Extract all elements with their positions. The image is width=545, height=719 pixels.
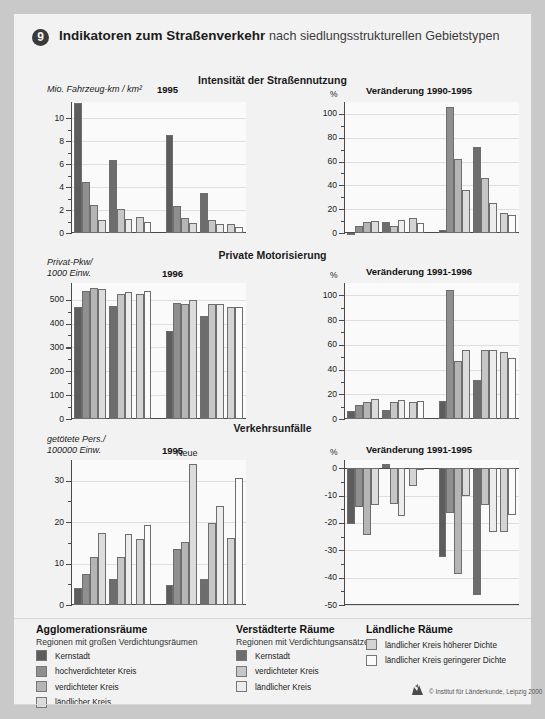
y-tick-minor (341, 126, 345, 127)
gridline (72, 141, 246, 142)
axis-baseline (345, 604, 519, 605)
bar (347, 468, 355, 524)
y-tick-minor (341, 591, 345, 592)
bar (508, 468, 516, 515)
y-tick-label: 20 (311, 389, 337, 399)
y-tick-label: 40 (311, 364, 337, 374)
bar (136, 539, 144, 605)
bar (481, 350, 489, 419)
y-tick (339, 162, 345, 163)
bar (409, 468, 417, 486)
bar (200, 579, 208, 605)
bar (439, 468, 447, 557)
bar (82, 574, 90, 605)
y-tick-label: 100 (311, 108, 337, 118)
bar (117, 557, 125, 605)
bar (371, 221, 379, 233)
bar (473, 468, 481, 595)
y-tick-minor (341, 197, 345, 198)
gridline (345, 578, 519, 579)
legend-title-0: Agglomerationsräume (36, 623, 147, 635)
divider-0 (14, 618, 531, 619)
bar (363, 468, 371, 535)
y-tick-minor (341, 407, 345, 408)
bar (371, 399, 379, 419)
y-tick-minor (68, 359, 72, 360)
bar (500, 352, 508, 419)
legend-item-label: ländlicher Kreis (255, 683, 311, 692)
y-tick (339, 605, 345, 606)
bar (347, 233, 355, 235)
bar (227, 307, 235, 419)
bar (439, 230, 447, 233)
y-tick-minor (341, 308, 345, 309)
bar (489, 203, 497, 233)
bar (481, 178, 489, 233)
y-tick-label: 4 (38, 182, 64, 192)
y-tick (66, 605, 72, 606)
page-title: Indikatoren zum Straßenverkehr nach sied… (59, 28, 499, 43)
legend-swatch (36, 697, 47, 708)
y-axis-unit-right-2: % (330, 447, 338, 457)
gridline (345, 138, 519, 139)
bar (454, 468, 462, 573)
bar (417, 401, 425, 419)
legend-item-label: Kernstadt (255, 652, 290, 661)
plot-area-left-2: 0102030 (71, 460, 246, 605)
y-axis-unit-right-1: % (330, 270, 338, 280)
bar (144, 222, 152, 233)
legend-title-2: Ländliche Räume (366, 623, 453, 635)
y-tick (66, 522, 72, 523)
bar (500, 468, 508, 532)
bar (390, 226, 398, 233)
bar (144, 291, 152, 419)
bar (82, 182, 90, 233)
y-tick-minor (341, 482, 345, 483)
y-tick-label: 0 (311, 463, 337, 473)
bar (508, 358, 516, 419)
bar (189, 464, 197, 605)
legend-subtitle-1: Regionen mit Verdichtungsansätzen (236, 637, 374, 647)
bar (166, 585, 174, 605)
bar (181, 304, 189, 419)
bar (382, 410, 390, 419)
bar (390, 468, 398, 504)
y-tick-label: 8 (38, 136, 64, 146)
y-tick-label: 0 (38, 600, 64, 610)
legend-swatch (236, 681, 247, 692)
y-tick-minor (68, 199, 72, 200)
legend-item-label: verdichteter Kreis (255, 667, 319, 676)
y-tick-minor (341, 357, 345, 358)
y-tick (339, 550, 345, 551)
y-tick (339, 394, 345, 395)
gridline (345, 185, 519, 186)
bar (489, 350, 497, 419)
y-tick (66, 324, 72, 325)
y-tick-label: 100 (38, 390, 64, 400)
bar (473, 147, 481, 233)
bar (235, 478, 243, 605)
y-tick (339, 370, 345, 371)
bar (382, 464, 390, 468)
y-tick-label: 0 (311, 228, 337, 238)
y-tick-minor (68, 407, 72, 408)
bar (90, 557, 98, 605)
bar (390, 402, 398, 419)
bar (98, 289, 106, 419)
legend-title-1: Verstädterte Räume (236, 623, 335, 635)
bar (181, 542, 189, 605)
y-tick-label: -50 (311, 600, 337, 610)
legend-item-label: hochverdichteter Kreis (55, 667, 136, 676)
legend-swatch (236, 666, 247, 677)
gridline (72, 210, 246, 211)
legend-swatch (36, 681, 47, 692)
bar (208, 304, 216, 419)
bar (489, 468, 497, 532)
gridline (345, 550, 519, 551)
legend-swatch (236, 650, 247, 661)
y-tick-label: 100 (311, 290, 337, 300)
subtitle-right-0: Veränderung 1990-1995 (366, 85, 472, 96)
y-tick (339, 295, 345, 296)
y-tick-label: 2 (38, 205, 64, 215)
bar (90, 205, 98, 233)
